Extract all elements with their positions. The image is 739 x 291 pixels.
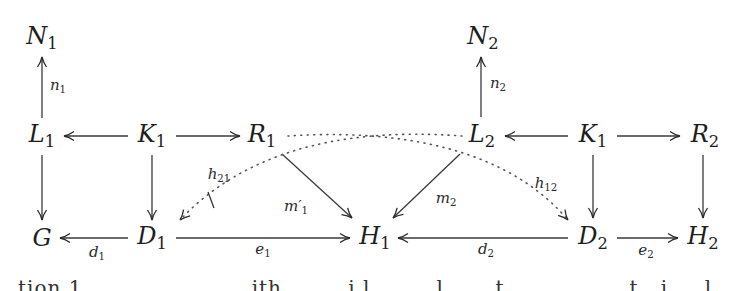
label-n1: n1 [50, 78, 66, 95]
node-N2: N2 [467, 24, 498, 52]
node-K1-left: K1 [138, 122, 166, 150]
node-R2: R2 [691, 122, 719, 150]
label-d2: d2 [478, 242, 494, 259]
label-m1-prime: m′1 [284, 199, 308, 216]
negation-slash [208, 192, 214, 208]
node-H1: H1 [359, 224, 390, 252]
node-N1: N1 [26, 24, 57, 52]
label-d1: d1 [89, 245, 105, 262]
label-e1: e1 [255, 242, 270, 259]
caption-text-cutoff: tion 1 . . . . . . . . . . . ith . . . .… [0, 276, 739, 291]
node-K1-right: K1 [579, 122, 607, 150]
label-e2: e2 [638, 243, 653, 260]
label-m2: m2 [436, 191, 457, 208]
node-G: G [32, 226, 51, 250]
node-R1: R1 [248, 122, 276, 150]
label-h21: h21 [208, 167, 231, 184]
commutative-diagram: N1 L1 K1 R1 G D1 H1 N2 L2 K1 R2 D2 H2 n1… [0, 0, 739, 291]
node-L2: L2 [469, 122, 495, 150]
node-D2: D2 [578, 224, 608, 252]
node-H2: H2 [687, 224, 718, 252]
arrow-h12 [288, 135, 568, 220]
node-L1: L1 [29, 122, 55, 150]
node-D1: D1 [137, 224, 167, 252]
label-h12: h12 [535, 176, 558, 193]
label-n2: n2 [490, 76, 506, 93]
